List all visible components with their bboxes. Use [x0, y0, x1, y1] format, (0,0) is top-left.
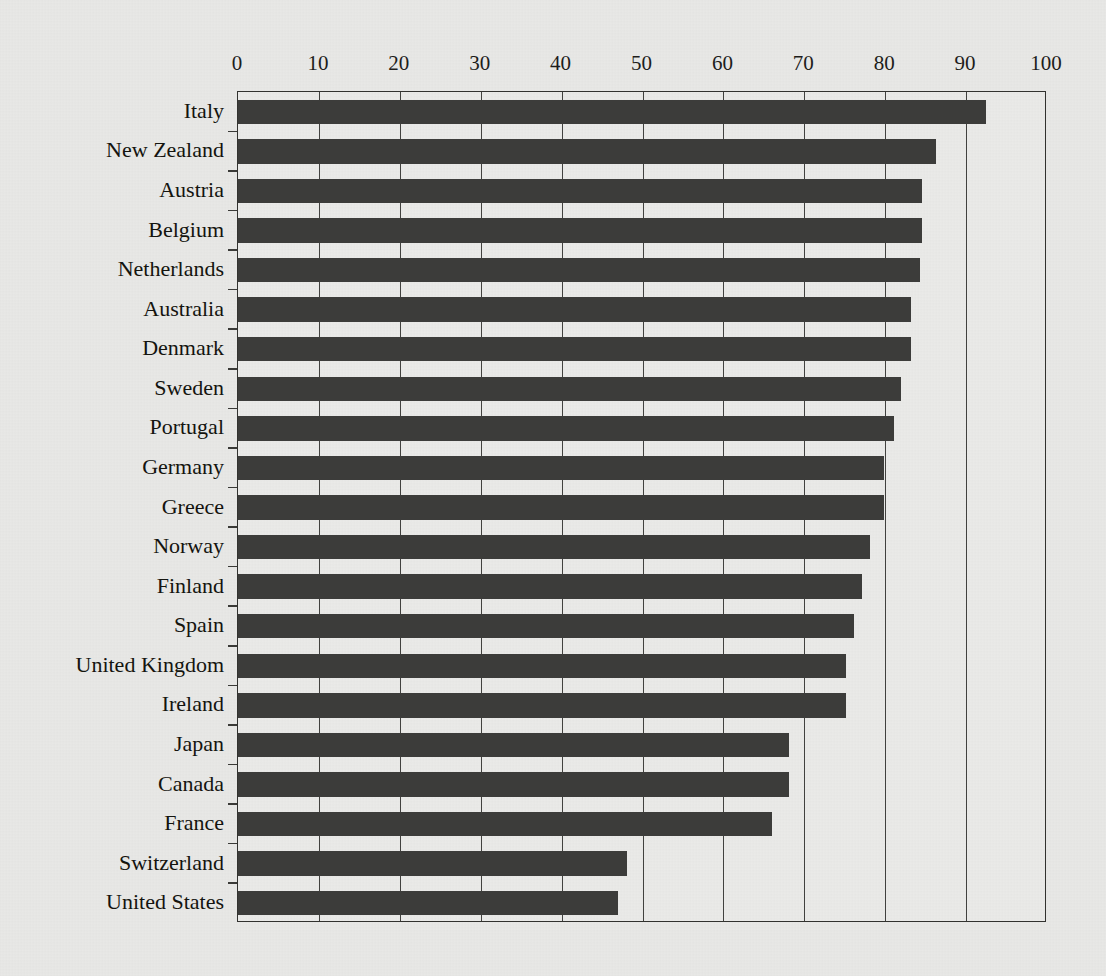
- y-axis-category-label: Spain: [0, 614, 224, 636]
- bar: [238, 456, 884, 481]
- bar: [238, 139, 936, 164]
- y-axis-category-label: Canada: [0, 773, 224, 795]
- bar: [238, 179, 922, 204]
- y-axis-category-label: Switzerland: [0, 852, 224, 874]
- y-axis-tick: [228, 566, 237, 568]
- y-axis-category-label: Belgium: [0, 219, 224, 241]
- bar: [238, 377, 901, 402]
- y-axis-tick: [228, 447, 237, 449]
- y-axis-category-label: Ireland: [0, 693, 224, 715]
- bar: [238, 654, 846, 679]
- y-axis-category-label: Greece: [0, 496, 224, 518]
- y-axis-category-label: France: [0, 812, 224, 834]
- y-axis-tick: [228, 249, 237, 251]
- y-axis-category-label: Norway: [0, 535, 224, 557]
- y-axis-tick: [228, 645, 237, 647]
- y-axis-tick: [228, 170, 237, 172]
- x-axis-tick-label: 80: [874, 53, 895, 74]
- y-axis-category-label: Finland: [0, 575, 224, 597]
- y-axis-tick: [228, 882, 237, 884]
- bar: [238, 614, 854, 639]
- y-axis-tick: [228, 210, 237, 212]
- y-axis-tick: [228, 843, 237, 845]
- x-axis-tick-label: 30: [469, 53, 490, 74]
- y-axis-tick: [228, 526, 237, 528]
- bar: [238, 693, 846, 718]
- y-axis-category-label: Australia: [0, 298, 224, 320]
- bar: [238, 495, 884, 520]
- y-axis-category-label: Germany: [0, 456, 224, 478]
- bar: [238, 218, 922, 243]
- y-axis-tick: [228, 289, 237, 291]
- x-axis-tick-label: 0: [232, 53, 243, 74]
- bar: [238, 851, 627, 876]
- y-axis-tick: [228, 328, 237, 330]
- bar-chart-figure: 0102030405060708090100 ItalyNew ZealandA…: [0, 0, 1106, 976]
- x-axis-tick-label: 40: [550, 53, 571, 74]
- y-axis-category-label: Portugal: [0, 416, 224, 438]
- y-axis-tick: [228, 764, 237, 766]
- y-axis-tick: [228, 724, 237, 726]
- gridline: [885, 92, 886, 921]
- y-axis-tick: [228, 803, 237, 805]
- gridline: [966, 92, 967, 921]
- y-axis-tick: [228, 685, 237, 687]
- y-axis-category-label: Denmark: [0, 337, 224, 359]
- y-axis-category-label: New Zealand: [0, 139, 224, 161]
- bar: [238, 297, 911, 322]
- bar: [238, 100, 986, 125]
- y-axis-tick: [228, 605, 237, 607]
- y-axis-tick: [228, 131, 237, 133]
- y-axis-category-label: Japan: [0, 733, 224, 755]
- x-axis-tick-label: 100: [1030, 53, 1062, 74]
- y-axis-tick: [228, 487, 237, 489]
- bar: [238, 891, 618, 916]
- bar: [238, 574, 862, 599]
- x-axis-tick-label: 90: [955, 53, 976, 74]
- bar: [238, 812, 772, 837]
- x-axis-tick-label: 50: [631, 53, 652, 74]
- x-axis-tick-label: 60: [712, 53, 733, 74]
- y-axis-category-label: Sweden: [0, 377, 224, 399]
- y-axis-tick: [228, 368, 237, 370]
- bar: [238, 733, 789, 758]
- y-axis-category-label: United States: [0, 891, 224, 913]
- y-axis-category-label: United Kingdom: [0, 654, 224, 676]
- plot-area: [237, 91, 1046, 922]
- x-axis-tick-label: 70: [793, 53, 814, 74]
- y-axis-tick: [228, 408, 237, 410]
- x-axis-tick-label: 20: [388, 53, 409, 74]
- y-axis-category-label: Austria: [0, 179, 224, 201]
- bar: [238, 258, 920, 283]
- bar: [238, 416, 894, 441]
- y-axis-category-label: Italy: [0, 100, 224, 122]
- x-axis-tick-label: 10: [307, 53, 328, 74]
- bar: [238, 337, 911, 362]
- bar: [238, 772, 789, 797]
- bar: [238, 535, 870, 560]
- y-axis-category-label: Netherlands: [0, 258, 224, 280]
